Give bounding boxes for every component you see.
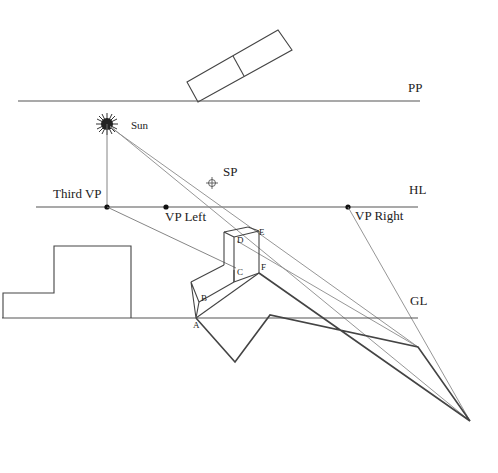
third-vp-label: Third VP bbox=[53, 186, 102, 201]
horizon-line-label: HL bbox=[409, 182, 426, 197]
sun-ray-1 bbox=[110, 126, 470, 421]
perspective-object bbox=[191, 227, 259, 318]
vp-right-ray bbox=[348, 207, 470, 421]
picture-plane-label: PP bbox=[408, 80, 422, 95]
perspective-shadow-diagram: PP Sun SP HL Third VP VP Left VP Right bbox=[0, 0, 498, 473]
station-point-label: SP bbox=[223, 164, 237, 179]
point-a-label: A bbox=[193, 320, 200, 330]
point-b-label: B bbox=[201, 293, 207, 303]
sun-ray-2 bbox=[110, 127, 418, 347]
sun-label: Sun bbox=[131, 119, 149, 131]
vp-right-label: VP Right bbox=[355, 208, 404, 223]
plan-view-object bbox=[187, 30, 292, 102]
crosshair-icon bbox=[206, 177, 218, 189]
point-e-label: E bbox=[259, 227, 265, 237]
vp-left-label: VP Left bbox=[165, 209, 206, 224]
elevation-view-object bbox=[3, 246, 131, 318]
point-d-label: D bbox=[237, 235, 244, 245]
point-f-label: F bbox=[261, 262, 266, 272]
point-c-label: C bbox=[237, 267, 243, 277]
shadow-ray-d bbox=[237, 241, 418, 347]
cast-shadow-outline bbox=[196, 273, 470, 421]
ground-line-label: GL bbox=[410, 293, 427, 308]
